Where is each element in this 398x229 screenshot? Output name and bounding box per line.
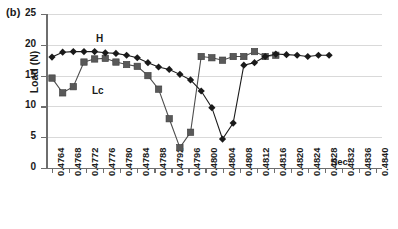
data-point-h <box>59 49 66 56</box>
data-point-lc <box>187 129 193 135</box>
data-point-h <box>176 71 183 78</box>
data-point-h <box>134 54 141 61</box>
data-point-h <box>294 52 301 59</box>
data-point-lc <box>219 57 225 63</box>
data-point-lc <box>59 90 65 96</box>
data-point-lc <box>209 55 215 61</box>
data-point-lc <box>49 75 55 81</box>
data-point-h <box>123 52 130 59</box>
data-point-h <box>326 52 333 59</box>
data-point-lc <box>230 53 236 59</box>
series-label-h: H <box>96 33 103 44</box>
data-point-h <box>70 48 77 55</box>
data-point-h <box>80 48 87 55</box>
data-point-lc <box>113 59 119 65</box>
data-point-lc <box>134 63 140 69</box>
data-point-h <box>112 50 119 57</box>
data-point-h <box>208 104 215 111</box>
data-point-h <box>240 62 247 69</box>
data-point-h <box>48 54 55 61</box>
data-point-h <box>219 135 226 142</box>
data-point-lc <box>251 48 257 54</box>
data-point-h <box>166 66 173 73</box>
data-point-lc <box>123 61 129 67</box>
data-point-h <box>251 59 258 66</box>
series-label-lc: Lc <box>92 85 104 96</box>
data-point-lc <box>166 116 172 122</box>
data-point-h <box>283 51 290 58</box>
data-point-h <box>304 53 311 60</box>
data-point-h <box>155 63 162 70</box>
data-point-lc <box>198 53 204 59</box>
data-point-lc <box>155 86 161 92</box>
data-point-h <box>144 59 151 66</box>
data-point-h <box>230 119 237 126</box>
data-point-h <box>91 48 98 55</box>
chart-figure: (b) Load (N) Sec. 0510152025 0.47640.476… <box>0 0 398 229</box>
data-point-lc <box>145 72 151 78</box>
data-point-lc <box>177 144 183 150</box>
data-point-h <box>315 52 322 59</box>
data-point-lc <box>241 53 247 59</box>
data-point-lc <box>81 59 87 65</box>
data-point-lc <box>70 83 76 89</box>
data-series-layer <box>0 0 398 229</box>
data-point-lc <box>91 56 97 62</box>
